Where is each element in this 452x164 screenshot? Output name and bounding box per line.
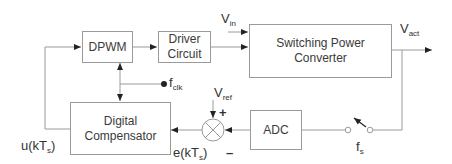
u-kts-label: u(kTs)	[21, 139, 55, 158]
dpwm-label: DPWM	[89, 40, 127, 55]
compensator-label-2: Compensator	[84, 129, 156, 144]
digital-compensator-block: Digital Compensator	[70, 102, 171, 155]
e-kts-label: e(kTs)	[173, 146, 207, 164]
clock-source-dot	[161, 81, 167, 87]
vref-label: Vref	[214, 86, 232, 105]
driver-circuit-block: Driver Circuit	[158, 31, 211, 63]
vact-label: Vact	[400, 22, 419, 41]
driver-label-1: Driver	[169, 32, 201, 47]
adc-label: ADC	[263, 123, 288, 138]
dpwm-block: DPWM	[82, 31, 133, 63]
adc-block: ADC	[250, 110, 302, 150]
driver-label-2: Circuit	[167, 47, 201, 62]
switch-contact-right	[367, 127, 373, 133]
fs-label: fs	[356, 140, 364, 159]
sampling-switch-icon	[354, 118, 366, 127]
switch-contact-left	[345, 127, 351, 133]
minus-sign: –	[226, 146, 233, 159]
converter-label-1: Switching Power	[276, 36, 365, 51]
fclk-label: fclk	[169, 76, 182, 95]
compensator-label-1: Digital	[104, 114, 137, 129]
vin-label: Vin	[221, 12, 236, 31]
switching-power-converter-block: Switching Power Converter	[249, 24, 392, 78]
plus-sign: +	[219, 106, 227, 119]
converter-label-2: Converter	[294, 51, 347, 66]
